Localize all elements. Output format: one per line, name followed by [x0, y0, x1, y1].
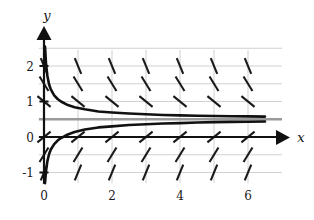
y-axis-label: y: [42, 8, 51, 23]
x-axis-arrowhead: [276, 130, 290, 145]
figure-slope-field: -10120246 y x: [0, 0, 314, 220]
y-tick-label: 2: [26, 60, 34, 74]
plot-canvas: -10120246 y x: [0, 0, 314, 220]
x-tick-label: 0: [40, 189, 48, 203]
x-tick-label: 4: [176, 189, 184, 203]
y-tick-label: -1: [22, 166, 34, 180]
y-tick-label: 1: [26, 95, 34, 109]
tick-labels: -10120246: [22, 60, 252, 204]
y-axis-arrowhead: [37, 26, 52, 40]
x-tick-label: 6: [244, 189, 252, 203]
y-tick-label: 0: [26, 131, 34, 145]
x-tick-label: 2: [108, 189, 116, 203]
x-axis-label: x: [297, 130, 305, 145]
